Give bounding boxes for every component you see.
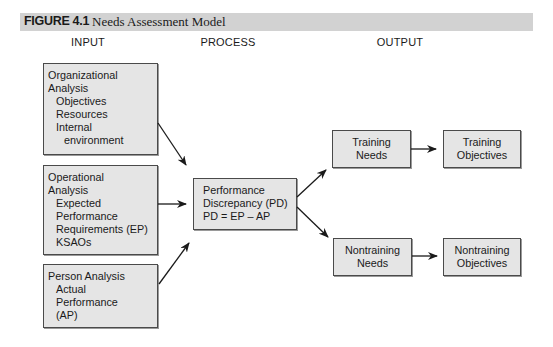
arrow-person-to-process [159, 243, 189, 284]
arrow-process-to-training-needs [297, 170, 326, 197]
arrow-organizational-to-process [158, 123, 186, 165]
flow-arrows [0, 0, 553, 347]
arrow-process-to-nontraining-needs [297, 207, 328, 237]
